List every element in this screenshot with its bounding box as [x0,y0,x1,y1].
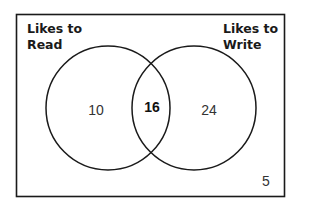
intersection-count: 16 [144,99,160,115]
write-label-line-2: Write [223,37,278,53]
read-label-line-2: Read [27,37,82,53]
read-set-label: Likes to Read [27,21,82,53]
write-set-label: Likes to Write [223,21,278,53]
write-only-count: 24 [201,102,217,118]
read-label-line-1: Likes to [27,21,82,37]
outside-count: 5 [262,173,270,189]
read-only-count: 10 [88,102,104,118]
write-label-line-1: Likes to [223,21,278,37]
